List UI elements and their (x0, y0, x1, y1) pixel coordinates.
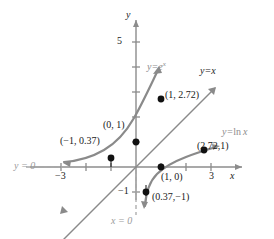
exponential-curve-label: y=ex (147, 61, 166, 72)
exponential-curve (64, 70, 158, 162)
point-ln-1-dot (158, 164, 165, 171)
y-axis-label: y (126, 10, 130, 20)
exponential-curve-label-exponent: x (163, 60, 166, 68)
point-exp-0-dot (133, 139, 140, 146)
x-tick-label-neg3: −3 (55, 171, 66, 181)
y-axis-arrowhead (133, 20, 139, 27)
logarithm-curve-label-lead: y= (222, 126, 233, 137)
logarithm-curve-label: y=ln x (222, 127, 247, 137)
point-exp-neg1-label: (−1, 0.37) (60, 136, 100, 146)
point-exp-1-label: (1, 2.72) (165, 90, 199, 100)
point-ln-1-label: (1, 0) (161, 172, 183, 182)
point-ln-272-label: (2.72,1) (197, 141, 229, 151)
y-tick-label-neg1: −1 (118, 186, 129, 196)
point-exp-0-label: (0, 1) (103, 120, 125, 130)
identity-line-arrowhead-lower (60, 206, 68, 214)
logarithm-asymptote-arrowhead (141, 201, 148, 209)
x-axis-arrowhead (235, 164, 242, 170)
point-exp-1-dot (158, 96, 165, 103)
y-tick-label-5: 5 (117, 36, 122, 46)
graph-figure: y x 5 −1 −3 3 y=ex y=x y=ln x y = 0 x = … (0, 0, 274, 239)
horizontal-asymptote-label: y = 0 (14, 161, 35, 171)
x-tick-label-3: 3 (209, 171, 214, 181)
vertical-asymptote-label: x = 0 (111, 216, 132, 226)
logarithm-curve-label-tail: x (243, 126, 247, 137)
x-axis-label: x (230, 171, 234, 181)
point-ln-037-label: (0.37,−1) (152, 192, 189, 202)
identity-line-label: y=x (200, 66, 216, 76)
logarithm-curve-label-ln: ln (233, 126, 241, 137)
exponential-curve-label-base: y=e (147, 61, 163, 72)
graph-canvas (0, 0, 274, 239)
